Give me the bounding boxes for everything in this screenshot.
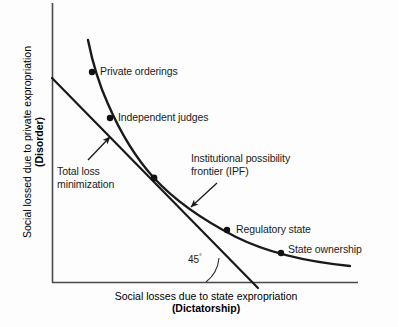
marker-independent-judges (107, 115, 113, 121)
ipf-arrow (191, 183, 217, 207)
label-angle-45: 45° (188, 251, 202, 267)
y-axis-title-line2: (Disorder) (33, 27, 45, 257)
y-axis-title: Social lossed due to private expropriati… (21, 27, 45, 257)
angle-value: 45 (188, 254, 199, 265)
label-independent-judges: Independent judges (118, 111, 208, 124)
x-axis-title-line1: Social losses due to state expropriation (52, 290, 360, 302)
marker-state-ownership (278, 250, 284, 256)
ipf-line2: frontier (IPF) (191, 165, 290, 178)
marker-private-orderings (89, 69, 95, 75)
total-loss-line1: Total loss (57, 165, 114, 178)
axis-lines (52, 3, 358, 283)
label-state-ownership: State ownership (288, 243, 362, 256)
label-private-orderings: Private orderings (100, 65, 178, 78)
x-axis-title-line2: (Dictatorship) (52, 302, 360, 314)
x-axis-title: Social losses due to state expropriation… (52, 290, 360, 314)
marker-regulatory-state (224, 227, 230, 233)
angle-arc (206, 258, 219, 282)
y-axis-title-line1: Social lossed due to private expropriati… (21, 27, 33, 257)
total-loss-line2: minimization (57, 178, 114, 191)
total-loss-arrow (88, 137, 110, 160)
degree-symbol: ° (199, 253, 202, 260)
ipf-line1: Institutional possibility (191, 152, 290, 165)
marker-total-loss-minimization (151, 175, 158, 182)
ipf-diagram-figure: Social lossed due to private expropriati… (0, 0, 398, 327)
label-ipf: Institutional possibility frontier (IPF) (191, 152, 290, 177)
label-total-loss-minimization: Total loss minimization (57, 165, 114, 190)
label-regulatory-state: Regulatory state (236, 223, 311, 236)
